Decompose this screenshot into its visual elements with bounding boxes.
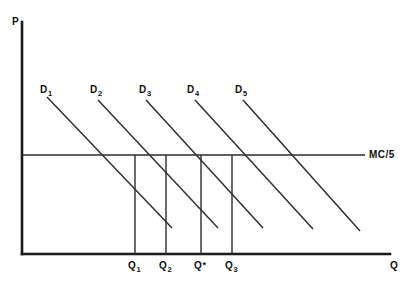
demand-label-d4: D4 bbox=[187, 85, 199, 95]
marginal-cost-label: MC/5 bbox=[369, 150, 395, 160]
economics-diagram: P Q MC/5 D1 D2 D3 D4 D5 Q1 Q2 Q* Q3 bbox=[0, 0, 415, 288]
demand-curve-d5 bbox=[243, 100, 360, 231]
demand-label-d4-text: D bbox=[187, 84, 195, 95]
demand-label-d5-sub: 5 bbox=[243, 89, 247, 98]
axes-group bbox=[22, 22, 390, 254]
demand-curve-d2 bbox=[98, 100, 218, 228]
quantity-label-q2-text: Q bbox=[159, 260, 167, 271]
demand-label-d5-text: D bbox=[235, 84, 243, 95]
quantity-label-qstar-star: * bbox=[202, 260, 206, 270]
demand-label-d2: D2 bbox=[90, 85, 102, 95]
demand-curve-d3 bbox=[146, 100, 263, 228]
x-axis-label: Q bbox=[390, 261, 398, 271]
demand-label-d2-sub: 2 bbox=[98, 89, 102, 98]
quantity-label-qstar-text: Q bbox=[194, 260, 202, 271]
demand-label-d2-text: D bbox=[90, 84, 98, 95]
demand-label-d3-text: D bbox=[139, 84, 147, 95]
demand-label-d1: D1 bbox=[40, 85, 52, 95]
demand-curves-group bbox=[47, 97, 360, 231]
quantity-label-q1-sub: 1 bbox=[136, 265, 140, 274]
quantity-label-q3: Q3 bbox=[225, 261, 238, 271]
demand-label-d3-sub: 3 bbox=[147, 89, 151, 98]
quantity-label-qstar: Q* bbox=[194, 261, 206, 271]
y-axis-label: P bbox=[12, 17, 19, 27]
quantity-label-q2: Q2 bbox=[159, 261, 172, 271]
demand-label-d1-text: D bbox=[40, 84, 48, 95]
diagram-canvas bbox=[0, 0, 415, 288]
quantity-label-q3-sub: 3 bbox=[233, 265, 237, 274]
quantity-label-q1-text: Q bbox=[128, 260, 136, 271]
demand-label-d1-sub: 1 bbox=[48, 89, 52, 98]
demand-curve-d1 bbox=[47, 97, 172, 228]
quantity-label-q1: Q1 bbox=[128, 261, 141, 271]
demand-label-d4-sub: 4 bbox=[195, 89, 199, 98]
quantity-label-q3-text: Q bbox=[225, 260, 233, 271]
demand-label-d5: D5 bbox=[235, 85, 247, 95]
demand-label-d3: D3 bbox=[139, 85, 151, 95]
demand-curve-d4 bbox=[195, 100, 313, 229]
quantity-label-q2-sub: 2 bbox=[167, 265, 171, 274]
